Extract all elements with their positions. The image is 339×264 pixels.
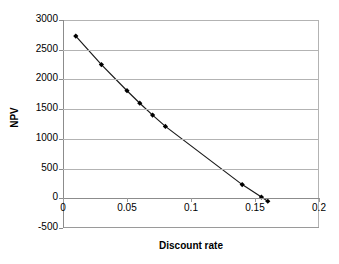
plot-area bbox=[63, 20, 319, 228]
y-tick-mark bbox=[59, 139, 63, 140]
y-tick-mark bbox=[59, 50, 63, 51]
x-axis-title: Discount rate bbox=[63, 240, 319, 251]
y-tick-label: 500 bbox=[0, 162, 58, 173]
gridline-horizontal bbox=[63, 169, 319, 170]
y-tick-mark bbox=[59, 79, 63, 80]
gridline-horizontal bbox=[63, 50, 319, 51]
y-tick-label: 2500 bbox=[0, 43, 58, 54]
y-tick-label: 1000 bbox=[0, 132, 58, 143]
y-tick-label: -500 bbox=[0, 221, 58, 232]
y-tick-label: 2000 bbox=[0, 72, 58, 83]
npv-vs-discount-rate-chart: NPV Discount rate 3000250020001500100050… bbox=[0, 0, 339, 264]
gridline-horizontal bbox=[63, 139, 319, 140]
y-tick-mark bbox=[59, 169, 63, 170]
gridline-horizontal bbox=[63, 109, 319, 110]
series-line bbox=[76, 36, 268, 201]
x-tick-label: 0.2 bbox=[299, 202, 339, 213]
series-npv bbox=[63, 20, 319, 228]
gridline-horizontal bbox=[63, 79, 319, 80]
x-tick-label: 0.1 bbox=[171, 202, 211, 213]
y-tick-mark bbox=[59, 109, 63, 110]
x-tick-label: 0.05 bbox=[107, 202, 147, 213]
y-tick-mark bbox=[59, 20, 63, 21]
y-tick-mark bbox=[59, 228, 63, 229]
x-tick-label: 0 bbox=[43, 202, 83, 213]
y-tick-label: 1500 bbox=[0, 102, 58, 113]
y-tick-label: 0 bbox=[0, 191, 58, 202]
y-tick-label: 3000 bbox=[0, 13, 58, 24]
x-tick-label: 0.15 bbox=[235, 202, 275, 213]
